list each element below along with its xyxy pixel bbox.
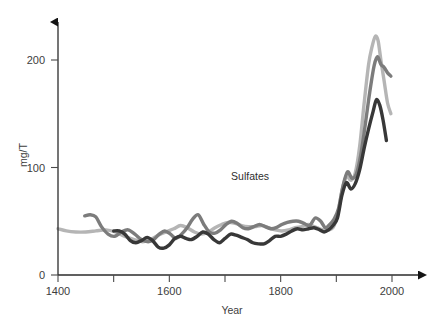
- y-axis-title: mg/T: [17, 142, 29, 167]
- x-tick-label-1400: 1400: [46, 285, 70, 297]
- x-tick-label-2000: 2000: [380, 285, 404, 297]
- series-line-medium-gray-core: [85, 57, 391, 242]
- y-axis-ticks: [51, 60, 58, 275]
- chart-annotations: Sulfates: [231, 170, 269, 182]
- x-axis-tick-labels: 1400160018002000: [46, 285, 404, 297]
- annotation-0: Sulfates: [231, 170, 269, 182]
- series-group: [58, 36, 391, 248]
- sulfates-line-chart: 1400160018002000 0100200 Sulfates Year m…: [0, 0, 443, 329]
- x-axis-title: Year: [221, 304, 243, 316]
- y-tick-label-0: 0: [39, 269, 45, 281]
- y-axis-tick-labels: 0100200: [27, 54, 45, 281]
- chart-canvas: 1400160018002000 0100200 Sulfates Year m…: [0, 0, 443, 329]
- series-line-light-gray-core: [58, 36, 391, 242]
- x-tick-label-1600: 1600: [157, 285, 181, 297]
- x-axis-ticks: [58, 275, 392, 282]
- y-tick-label-100: 100: [27, 162, 45, 174]
- y-tick-label-200: 200: [27, 54, 45, 66]
- x-tick-label-1800: 1800: [268, 285, 292, 297]
